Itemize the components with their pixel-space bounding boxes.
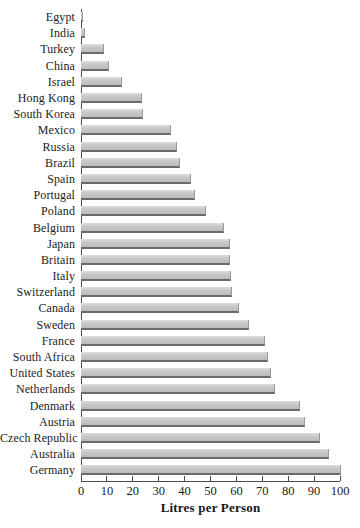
bar-track [81, 206, 340, 216]
value-bar [81, 223, 224, 233]
value-bar [81, 44, 104, 54]
bar-track [81, 158, 340, 168]
country-label: Mexico [0, 124, 81, 136]
litres-per-person-bar-chart: Egypt India Turkey China Israel Hong Kon… [0, 0, 360, 528]
bar-row: Japan [0, 236, 340, 252]
x-tick-mark [314, 476, 315, 481]
bar-track [81, 109, 340, 119]
x-tick-label: 30 [152, 485, 165, 498]
bar-track [81, 401, 340, 411]
country-label: Sweden [0, 319, 81, 331]
bar-row: Denmark [0, 398, 340, 414]
x-tick-mark [81, 476, 82, 481]
value-bar [81, 206, 206, 216]
x-tick-mark [106, 476, 107, 481]
bar-row: Brazil [0, 155, 340, 171]
value-bar [81, 384, 275, 394]
country-label: Turkey [0, 43, 81, 55]
x-tick-mark [262, 476, 263, 481]
value-bar [81, 449, 329, 459]
bar-track [81, 174, 340, 184]
x-tick-label: 10 [101, 485, 114, 498]
bar-row: South Korea [0, 106, 340, 122]
plot-area: Egypt India Turkey China Israel Hong Kon… [0, 9, 340, 478]
country-label: Portugal [0, 189, 81, 201]
x-tick-mark [184, 476, 185, 481]
value-bar [81, 433, 320, 443]
value-bar [81, 465, 341, 475]
x-tick-label: 70 [256, 485, 269, 498]
bar-track [81, 125, 340, 135]
value-bar [81, 368, 271, 378]
bar-row: Austria [0, 414, 340, 430]
bar-track [81, 77, 340, 87]
x-tick-label: 40 [178, 485, 191, 498]
bar-track [81, 190, 340, 200]
country-label: Spain [0, 173, 81, 185]
value-bar [81, 77, 122, 87]
country-label: South Korea [0, 108, 81, 120]
value-bar [81, 28, 85, 38]
value-bar [81, 12, 83, 22]
country-label: Canada [0, 302, 81, 314]
x-tick-mark [210, 476, 211, 481]
bar-track [81, 303, 340, 313]
bar-row: United States [0, 365, 340, 381]
x-tick-mark [288, 476, 289, 481]
country-label: China [0, 60, 81, 72]
value-bar [81, 174, 191, 184]
bar-row: Sweden [0, 317, 340, 333]
country-label: Netherlands [0, 383, 81, 395]
bar-row: Poland [0, 203, 340, 219]
value-bar [81, 125, 171, 135]
bar-track [81, 336, 340, 346]
bar-row: France [0, 333, 340, 349]
bar-row: Switzerland [0, 284, 340, 300]
bar-row: India [0, 25, 340, 41]
bar-row: Germany [0, 462, 340, 478]
value-bar [81, 303, 239, 313]
value-bar [81, 93, 142, 103]
bar-row: Russia [0, 139, 340, 155]
x-tick-label: 90 [308, 485, 321, 498]
bar-track [81, 433, 340, 443]
bar-track [81, 384, 340, 394]
x-tick-label: 80 [282, 485, 295, 498]
country-label: Czech Republic [0, 432, 81, 444]
value-bar [81, 352, 268, 362]
bar-row: Mexico [0, 122, 340, 138]
bar-track [81, 271, 340, 281]
country-label: Australia [0, 448, 81, 460]
bar-row: Portugal [0, 187, 340, 203]
country-label: Brazil [0, 157, 81, 169]
bar-track [81, 449, 340, 459]
bar-track [81, 28, 340, 38]
bar-row: Belgium [0, 219, 340, 235]
bar-track [81, 12, 340, 22]
country-label: Belgium [0, 222, 81, 234]
x-tick-mark [132, 476, 133, 481]
country-label: Japan [0, 238, 81, 250]
bar-track [81, 239, 340, 249]
value-bar [81, 336, 265, 346]
country-label: France [0, 335, 81, 347]
x-tick-label: 60 [230, 485, 243, 498]
bar-track [81, 93, 340, 103]
x-axis-line: 0 10 20 30 40 50 60 70 80 90 100 [81, 481, 340, 482]
x-tick-mark [158, 476, 159, 481]
x-tick-label: 20 [127, 485, 140, 498]
bar-row: Italy [0, 268, 340, 284]
country-label: Austria [0, 416, 81, 428]
bar-track [81, 287, 340, 297]
bar-row: Czech Republic [0, 430, 340, 446]
country-label: Egypt [0, 11, 81, 23]
bar-row: Turkey [0, 41, 340, 57]
bar-track [81, 44, 340, 54]
country-label: Switzerland [0, 286, 81, 298]
country-label: United States [0, 367, 81, 379]
x-tick-mark [236, 476, 237, 481]
bar-row: Netherlands [0, 381, 340, 397]
country-label: Hong Kong [0, 92, 81, 104]
bar-track [81, 352, 340, 362]
value-bar [81, 401, 300, 411]
